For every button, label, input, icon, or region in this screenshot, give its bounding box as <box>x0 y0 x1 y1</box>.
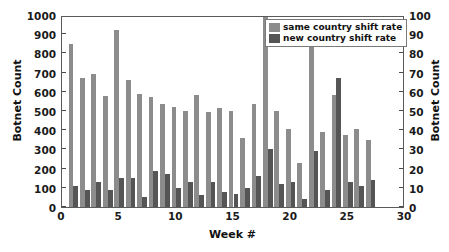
x-tick-label: 10 <box>160 211 190 222</box>
bar-new-country <box>96 182 101 207</box>
x-tick-label: 20 <box>275 211 305 222</box>
x-tick-label: 5 <box>103 211 133 222</box>
bar-new-country <box>348 182 353 207</box>
bar-new-country <box>211 182 216 207</box>
bar-new-country <box>153 171 158 207</box>
bar-same-country <box>69 44 74 207</box>
bar-new-country <box>279 184 284 207</box>
y-tick-label-left: 900 <box>14 30 56 41</box>
legend-item-new-country: new country shift rate <box>269 33 402 44</box>
bar-new-country <box>371 180 376 207</box>
bar-new-country <box>176 188 181 207</box>
bar-same-country <box>194 95 199 208</box>
bar-new-country <box>165 174 170 207</box>
bar-same-country <box>80 78 85 207</box>
y-tick-mark-left <box>62 148 66 149</box>
x-axis-title: Week # <box>61 228 404 241</box>
bar-new-country <box>256 176 261 207</box>
y-tick-label-right: 20 <box>409 165 437 176</box>
bar-new-country <box>142 197 147 207</box>
chart-figure: 01002003004005006007008009001000 0102030… <box>0 0 449 252</box>
bar-new-country <box>234 194 239 207</box>
x-tick-label: 25 <box>332 211 362 222</box>
y-tick-mark-right <box>399 168 403 169</box>
y-tick-mark-left <box>62 91 66 92</box>
legend-item-same-country: same country shift rate <box>269 22 402 33</box>
legend-label-same-country: same country shift rate <box>283 23 402 32</box>
bar-new-country <box>131 178 136 207</box>
bar-new-country <box>291 182 296 207</box>
y-tick-mark-right <box>399 206 403 207</box>
bar-new-country <box>199 195 204 207</box>
legend-label-new-country: new country shift rate <box>283 34 396 43</box>
bar-new-country <box>359 186 364 207</box>
y-tick-mark-right <box>399 52 403 53</box>
y-tick-label-left: 1000 <box>14 11 56 22</box>
bar-new-country <box>188 182 193 207</box>
chart-legend: same country shift rate new country shif… <box>265 19 407 47</box>
bar-new-country <box>108 190 113 207</box>
bar-new-country <box>73 186 78 207</box>
y-tick-mark-right <box>399 110 403 111</box>
y-tick-mark-right <box>399 148 403 149</box>
legend-swatch-new-country <box>269 34 280 43</box>
y-tick-mark-left <box>62 52 66 53</box>
y-tick-mark-left <box>62 168 66 169</box>
legend-swatch-same-country <box>269 23 280 32</box>
bar-new-country <box>222 192 227 207</box>
bar-new-country <box>119 178 124 207</box>
y-tick-label-left: 200 <box>14 165 56 176</box>
bar-new-country <box>314 151 319 207</box>
bar-new-country <box>85 190 90 207</box>
y-tick-mark-left <box>62 206 66 207</box>
y-axis-title-right: Botnet Count <box>429 41 442 161</box>
y-tick-mark-right <box>399 91 403 92</box>
y-tick-mark-left <box>62 129 66 130</box>
y-tick-mark-right <box>399 72 403 73</box>
y-tick-mark-left <box>62 72 66 73</box>
y-tick-label-left: 100 <box>14 184 56 195</box>
bar-new-country <box>325 190 330 207</box>
bar-new-country <box>245 188 250 207</box>
y-tick-mark-right <box>399 187 403 188</box>
y-tick-label-right: 90 <box>409 30 437 41</box>
y-tick-mark-right <box>399 129 403 130</box>
bar-new-country <box>302 199 307 207</box>
y-tick-label-right: 10 <box>409 184 437 195</box>
y-tick-mark-left <box>62 33 66 34</box>
y-axis-title-left: Botnet Count <box>11 41 24 161</box>
y-tick-mark-left <box>62 110 66 111</box>
y-tick-label-right: 100 <box>409 11 437 22</box>
x-tick-label: 15 <box>218 211 248 222</box>
bar-new-country <box>268 149 273 207</box>
x-tick-label: 30 <box>389 211 419 222</box>
bar-same-country <box>137 94 142 207</box>
y-tick-mark-left <box>62 187 66 188</box>
bar-new-country <box>336 78 341 207</box>
x-tick-label: 0 <box>46 211 76 222</box>
